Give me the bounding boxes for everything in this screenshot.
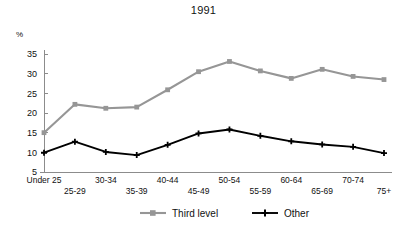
data-point-marker (381, 150, 387, 156)
data-point-marker (41, 150, 47, 156)
data-point-marker (257, 133, 263, 139)
data-point-marker (351, 74, 356, 79)
data-point-marker (226, 127, 232, 133)
y-axis-tick-label: 25 (27, 89, 37, 99)
legend-marker (150, 210, 156, 216)
x-axis-tick-label: 25-29 (64, 186, 86, 196)
y-axis-tick-label: 20 (27, 108, 37, 118)
legend-label: Third level (172, 208, 218, 219)
data-point-marker (227, 59, 232, 64)
data-point-marker (42, 130, 47, 135)
legend-label: Other (284, 208, 310, 219)
x-axis-tick-label: 50-54 (219, 175, 241, 185)
data-point-marker (72, 139, 78, 145)
y-axis: 5101520253035 (27, 49, 48, 177)
y-axis-tick-label: 15 (27, 128, 37, 138)
series-line (44, 61, 384, 132)
y-axis-tick-label: 30 (27, 69, 37, 79)
x-axis-tick-label: Under 25 (27, 175, 62, 185)
data-series-2 (41, 127, 387, 159)
data-point-marker (165, 142, 171, 148)
x-axis-tick-label: 45-49 (188, 186, 210, 196)
chart-legend: Third levelOther (140, 208, 310, 219)
x-axis-tick-label: 30-34 (95, 175, 117, 185)
x-axis-tick-label: 35-39 (126, 186, 148, 196)
data-point-marker (319, 141, 325, 147)
data-point-marker (288, 138, 294, 144)
x-axis-tick-label: 75+ (377, 186, 391, 196)
data-point-marker (196, 130, 202, 136)
chart-container: 1991 % 5101520253035 Under 2525-2930-343… (0, 0, 407, 231)
data-point-marker (289, 76, 294, 81)
x-axis-tick-label: 60-64 (280, 175, 302, 185)
data-point-marker (196, 69, 201, 74)
x-axis-tick-label: 70-74 (342, 175, 364, 185)
data-point-marker (73, 102, 78, 107)
data-point-marker (103, 149, 109, 155)
x-axis-tick-label: 65-69 (311, 186, 333, 196)
data-point-marker (134, 105, 139, 110)
legend-item-2[interactable]: Other (252, 208, 310, 219)
legend-item-1[interactable]: Third level (140, 208, 218, 219)
data-point-marker (165, 87, 170, 92)
data-point-marker (320, 67, 325, 72)
x-axis-tick-label: 40-44 (157, 175, 179, 185)
data-series-group (41, 59, 387, 158)
x-axis: Under 2525-2930-3435-3940-4445-4950-5455… (27, 172, 392, 196)
data-point-marker (258, 69, 263, 74)
data-point-marker (382, 77, 387, 82)
data-point-marker (350, 144, 356, 150)
y-axis-tick-label: 10 (27, 148, 37, 158)
data-point-marker (134, 152, 140, 158)
series-line (44, 130, 384, 156)
legend-marker (262, 210, 269, 217)
data-series-1 (42, 59, 387, 135)
x-axis-tick-label: 55-59 (249, 186, 271, 196)
plot-area: 5101520253035 Under 2525-2930-3435-3940-… (0, 0, 407, 231)
data-point-marker (103, 106, 108, 111)
y-axis-tick-label: 35 (27, 49, 37, 59)
